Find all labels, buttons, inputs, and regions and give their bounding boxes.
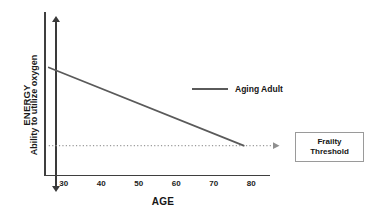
frailty-callout-line-1: Frailty bbox=[317, 137, 341, 147]
y-axis-line bbox=[44, 12, 46, 176]
frailty-threshold-callout: Frailty Threshold bbox=[295, 132, 364, 162]
y-axis-secondary-label: Ability to utilize oxygen bbox=[29, 35, 39, 175]
x-axis-line bbox=[44, 175, 270, 177]
legend-label-aging-adult: Aging Adult bbox=[235, 84, 283, 94]
x-axis-title: AGE bbox=[152, 196, 175, 207]
y-axis-primary-label-group: ENERGY bbox=[0, 0, 26, 221]
x-tick-label-0: 30 bbox=[59, 179, 68, 188]
legend-line-swatch bbox=[192, 88, 228, 90]
x-tick-label-3: 60 bbox=[172, 179, 181, 188]
x-tick-label-4: 70 bbox=[209, 179, 218, 188]
x-tick-label-1: 40 bbox=[97, 179, 106, 188]
legend: Aging Adult bbox=[192, 84, 283, 94]
chart-figure: ENERGY Ability to utilize oxygen 30 40 5… bbox=[0, 0, 369, 221]
y-axis-arrow-shaft bbox=[55, 22, 57, 186]
aging-adult-line bbox=[49, 67, 244, 145]
x-tick-label-2: 50 bbox=[134, 179, 143, 188]
arrow-up-icon bbox=[52, 16, 60, 22]
y-axis-secondary-label-group: Ability to utilize oxygen bbox=[24, 0, 44, 221]
threshold-arrow-icon bbox=[273, 142, 280, 149]
frailty-callout-line-2: Threshold bbox=[310, 147, 349, 157]
x-tick-label-5: 80 bbox=[247, 179, 256, 188]
